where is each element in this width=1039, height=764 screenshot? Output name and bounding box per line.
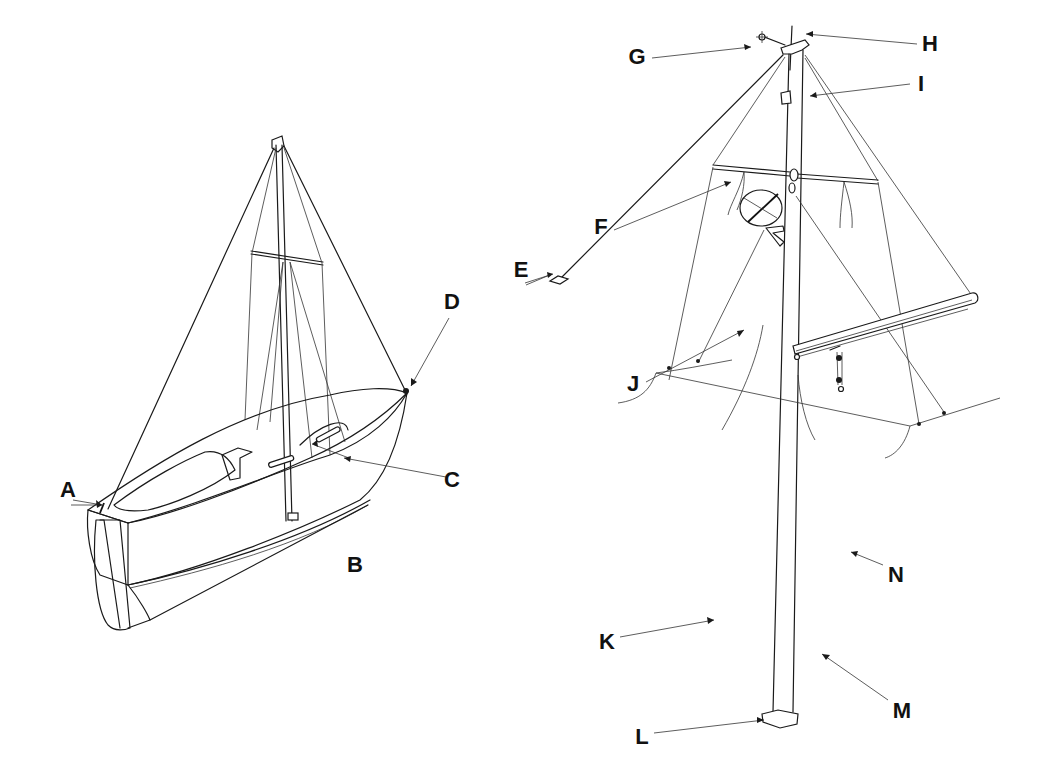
- label-e: E: [514, 259, 529, 281]
- rigging-diagram: A B C D E F G H I J K L M N: [0, 0, 1039, 764]
- label-a: A: [60, 479, 76, 501]
- label-f: F: [594, 216, 607, 238]
- label-b: B: [347, 554, 363, 576]
- label-g: G: [628, 46, 645, 68]
- label-l: L: [635, 726, 648, 748]
- diagram-artwork: [0, 0, 1039, 764]
- label-m: M: [893, 700, 911, 722]
- label-d: D: [444, 291, 460, 313]
- label-h: H: [922, 33, 938, 55]
- label-k: K: [599, 631, 615, 653]
- label-j: J: [627, 373, 639, 395]
- label-n: N: [888, 564, 904, 586]
- sailboat-illustration: [71, 136, 449, 630]
- label-c: C: [444, 469, 460, 491]
- label-i: I: [918, 73, 924, 95]
- mast-detail-illustration: [525, 26, 1000, 733]
